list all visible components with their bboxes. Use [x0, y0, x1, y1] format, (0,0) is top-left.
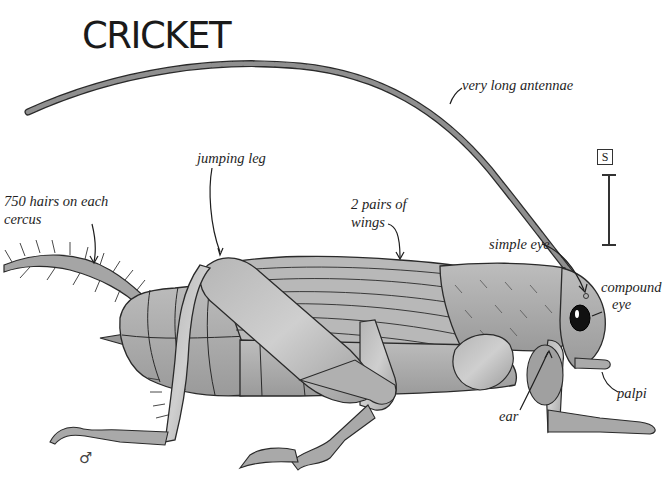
label-jumping-leg: jumping leg — [197, 150, 266, 167]
cercus — [4, 240, 148, 307]
compound-eye-shape — [570, 305, 590, 331]
male-symbol: ♂ — [79, 449, 92, 467]
label-cercus-line2: cercus — [4, 211, 41, 228]
label-wings-line2: wings — [351, 214, 385, 231]
label-compound-eye-line2: eye — [612, 296, 631, 313]
scale-bar — [602, 175, 616, 245]
cricket-illustration — [0, 0, 669, 501]
label-palpi: palpi — [617, 385, 647, 402]
label-compound-eye-line1: compound — [601, 279, 661, 296]
scale-symbol: S — [597, 149, 613, 165]
label-simple-eye: simple eye — [489, 236, 550, 253]
label-antennae: very long antennae — [462, 77, 573, 94]
label-wings-line1: 2 pairs of — [351, 196, 407, 213]
label-ear: ear — [499, 408, 518, 425]
pronotum — [440, 263, 571, 351]
label-cercus-line1: 750 hairs on each — [4, 193, 108, 210]
